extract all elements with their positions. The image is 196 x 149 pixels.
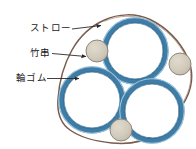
- label-rubber: 輪ゴム: [16, 73, 47, 83]
- label-straw: ストロー: [30, 23, 71, 33]
- skewer-upper-left: [86, 40, 108, 62]
- label-skewer: 竹串: [30, 48, 51, 58]
- skewer-bottom: [110, 119, 132, 141]
- skewer-right: [169, 53, 191, 75]
- leader-straw: [72, 26, 101, 30]
- diagram-container: ストロー 竹串 輪ゴム: [0, 0, 196, 149]
